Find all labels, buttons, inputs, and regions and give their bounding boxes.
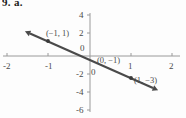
y-tick-label-0: 0 <box>80 44 85 53</box>
x-tick-label-2: 2 <box>169 62 174 71</box>
point-label-minus1-1: (−1, 1) <box>46 29 69 38</box>
point-label-0-minus1: (0, −1) <box>97 56 120 65</box>
x-tick-label-minus-2: -2 <box>3 62 11 71</box>
figure-container: 9. a. <box>0 0 186 118</box>
coordinate-plane <box>0 0 186 118</box>
point-label-1-minus3: (1, −3) <box>134 76 157 85</box>
x-tick-label-1: 1 <box>128 62 133 71</box>
y-tick-label-2: 2 <box>79 29 84 38</box>
y-tick-label-minus-2: -2 <box>76 70 84 79</box>
x-tick-label-minus-1: -1 <box>45 62 53 71</box>
y-tick-label-minus-6: -6 <box>76 106 84 115</box>
data-point-marker <box>129 76 133 80</box>
x-tick-label-0: 0 <box>91 68 96 77</box>
y-tick-label-minus-4: -4 <box>76 88 84 97</box>
y-tick-label-4: 4 <box>79 11 84 20</box>
data-point-marker <box>46 39 50 43</box>
